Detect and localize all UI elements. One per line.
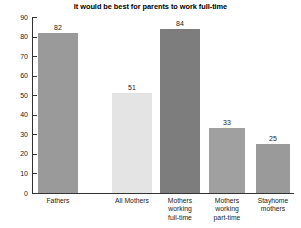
y-axis-tick-label: 30 xyxy=(6,131,28,138)
y-axis-tick-label: 40 xyxy=(6,111,28,118)
bar-chart: It would be best for parents to work ful… xyxy=(0,0,301,228)
x-axis-category-label: Mothers working full-time xyxy=(152,197,208,222)
x-axis-line xyxy=(32,193,294,194)
bar-group: 33 xyxy=(209,17,245,193)
y-axis-tick-label: 20 xyxy=(6,150,28,157)
x-axis-category-label: Fathers xyxy=(30,197,86,205)
bar[interactable] xyxy=(209,128,245,193)
bar[interactable] xyxy=(256,144,290,193)
bar-value-label: 25 xyxy=(256,135,290,142)
chart-title: It would be best for parents to work ful… xyxy=(0,2,301,12)
bar-value-label: 84 xyxy=(160,20,200,27)
bar[interactable] xyxy=(112,93,152,193)
y-axis-tick-label: 60 xyxy=(6,72,28,79)
bar-group: 51 xyxy=(112,17,152,193)
plot-area: 8251843325 xyxy=(32,17,294,193)
y-axis-tick-label: 10 xyxy=(6,170,28,177)
y-axis-tick-label: 90 xyxy=(6,14,28,21)
x-axis-category-label: Stayhome mothers xyxy=(248,197,298,214)
bar-group: 84 xyxy=(160,17,200,193)
y-axis-tick-label: 0 xyxy=(6,190,28,197)
y-axis-tick-label: 50 xyxy=(6,92,28,99)
y-axis-tick-label: 80 xyxy=(6,33,28,40)
bar[interactable] xyxy=(160,29,200,193)
x-axis-category-label: Mothers working part-time xyxy=(201,197,253,222)
bar-value-label: 51 xyxy=(112,84,152,91)
bar-group: 25 xyxy=(256,17,290,193)
bar[interactable] xyxy=(38,33,78,193)
y-axis-tick xyxy=(33,193,37,194)
bar-group: 82 xyxy=(38,17,78,193)
bar-value-label: 33 xyxy=(209,119,245,126)
bar-value-label: 82 xyxy=(38,24,78,31)
y-axis-tick-label: 70 xyxy=(6,53,28,60)
